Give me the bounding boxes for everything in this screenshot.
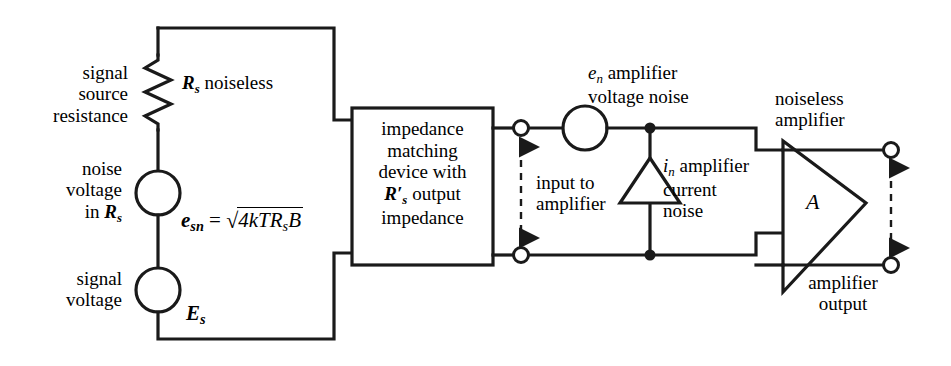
- label-in-line3: noise: [663, 200, 749, 221]
- label-noise-voltage-line1: noise: [10, 158, 122, 179]
- impedance-box-rs-symbol: R: [384, 183, 397, 204]
- label-input-to-amplifier: input to amplifier: [536, 172, 606, 215]
- terminal-output-bottom: [884, 258, 899, 273]
- label-en-line1: en amplifier: [588, 62, 689, 86]
- label-en-line2: voltage noise: [588, 86, 689, 107]
- terminal-input-top: [514, 121, 529, 136]
- junction-dot-top: [645, 123, 656, 134]
- label-rs-noiseless: Rs noiseless: [182, 72, 273, 96]
- label-esn-radicand: 4kTRsB: [237, 207, 303, 232]
- label-signal-voltage: signal voltage: [10, 268, 122, 311]
- label-rs-noiseless-rest: noiseless: [200, 72, 273, 93]
- label-noise-voltage-rs-subscript: s: [117, 209, 122, 224]
- impedance-box-text: impedance matching device with R′s outpu…: [352, 118, 493, 229]
- terminal-input-bottom: [514, 248, 529, 263]
- label-amplifier-output-line1: amplifier: [768, 272, 918, 293]
- label-noiseless-amplifier: noiseless amplifier: [775, 88, 845, 131]
- label-esn-subscript: sn: [190, 218, 204, 234]
- label-es: Es: [186, 302, 206, 327]
- label-in-rest: amplifier: [675, 155, 749, 176]
- label-in-line2: current: [663, 179, 749, 200]
- label-rs-symbol: R: [182, 72, 195, 93]
- amplifier-triangle: [783, 141, 866, 292]
- label-en-amplifier-voltage-noise: en amplifier voltage noise: [588, 62, 689, 107]
- circuit-diagram: signal source resistance Rs noiseless no…: [0, 0, 951, 366]
- impedance-box-line4: R′s output: [352, 183, 493, 207]
- label-esn-equals: =: [204, 208, 226, 232]
- label-esn-symbol: e: [181, 208, 190, 232]
- label-en-rest: amplifier: [603, 62, 677, 83]
- label-noise-voltage-in-rs: noise voltage in Rs: [10, 158, 122, 225]
- label-noise-voltage-line3: in Rs: [10, 201, 122, 225]
- label-in-amplifier-current-noise: in amplifier current noise: [663, 155, 749, 222]
- wire-en-to-amplifier-input-top: [607, 128, 783, 150]
- label-signal-source-resistance: signal source resistance: [10, 62, 128, 126]
- label-input-to-amplifier-line1: input to: [536, 172, 606, 193]
- label-noise-voltage-in: in: [85, 201, 105, 222]
- label-noise-voltage-rs-symbol: R: [104, 201, 117, 222]
- junction-dot-bottom: [645, 250, 656, 261]
- label-signal-voltage-line1: signal: [10, 268, 122, 289]
- label-esn-radicand-tail: B: [288, 208, 301, 232]
- label-signal-source-resistance-line1: signal: [10, 62, 128, 83]
- label-amplifier-gain-symbol: A: [806, 189, 819, 214]
- impedance-box-line3: device with: [352, 161, 493, 183]
- source-esn-circle: [136, 171, 180, 215]
- label-esn-formula: esn = √4kTRsB: [181, 208, 303, 234]
- label-signal-source-resistance-line2: source: [10, 83, 128, 104]
- terminal-output-top: [884, 143, 899, 158]
- label-esn-radicand-main: 4kTR: [238, 208, 282, 232]
- label-amplifier-gain: A: [806, 190, 819, 215]
- label-in-line1: in amplifier: [663, 155, 749, 179]
- label-es-subscript: s: [200, 311, 206, 327]
- source-en-circle: [563, 106, 607, 150]
- resistor-rs-zigzag: [145, 55, 171, 130]
- impedance-box-rs-rest: output: [407, 183, 460, 204]
- impedance-box-line2: matching: [352, 140, 493, 162]
- impedance-box-line1: impedance: [352, 118, 493, 140]
- label-input-to-amplifier-line2: amplifier: [536, 193, 606, 214]
- source-es-circle: [136, 268, 180, 312]
- label-noiseless-amplifier-line1: noiseless: [775, 88, 845, 109]
- label-noiseless-amplifier-line2: amplifier: [775, 109, 845, 130]
- sqrt-icon: √: [226, 208, 238, 233]
- label-amplifier-output-line2: output: [768, 293, 918, 314]
- label-signal-source-resistance-line3: resistance: [10, 105, 128, 126]
- label-noise-voltage-line2: voltage: [10, 179, 122, 200]
- label-amplifier-output: amplifier output: [768, 272, 918, 315]
- label-signal-voltage-line2: voltage: [10, 289, 122, 310]
- impedance-box-line5: impedance: [352, 207, 493, 229]
- wire-bottom-rail-to-amplifier: [529, 233, 783, 255]
- label-es-symbol: E: [186, 301, 200, 325]
